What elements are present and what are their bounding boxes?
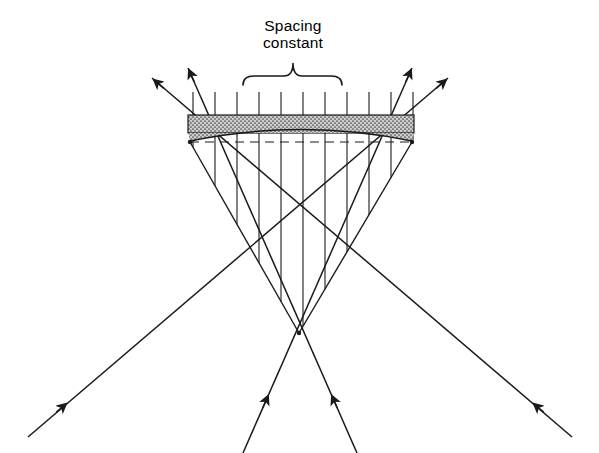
right-focus-node	[410, 140, 414, 144]
diagram-canvas: Spacing constant	[0, 0, 599, 453]
arrowhead-upper-right-inner	[406, 69, 412, 82]
arrowhead-bottom-left-inner	[263, 395, 269, 408]
diffraction-diagram: Spacing constant	[0, 0, 599, 453]
arrowhead-lower-left	[56, 403, 67, 412]
envelope-edge-left	[190, 142, 299, 333]
brace-group	[243, 63, 342, 85]
arrowhead-bottom-right-inner	[332, 395, 338, 408]
envelope-edge-right	[299, 142, 412, 333]
spacing-constant-label-line1: Spacing	[264, 17, 321, 34]
arrowhead-upper-left-inner	[189, 69, 195, 82]
arrowhead-upper-right	[436, 79, 447, 88]
focus-node-group	[188, 140, 414, 335]
bottom-focus-node	[297, 331, 301, 335]
spacing-constant-brace	[243, 63, 342, 85]
left-focus-node	[188, 140, 192, 144]
arrowhead-upper-left	[153, 79, 164, 88]
spacing-constant-label-line2: constant	[263, 34, 324, 51]
arrowhead-lower-right	[533, 403, 544, 412]
